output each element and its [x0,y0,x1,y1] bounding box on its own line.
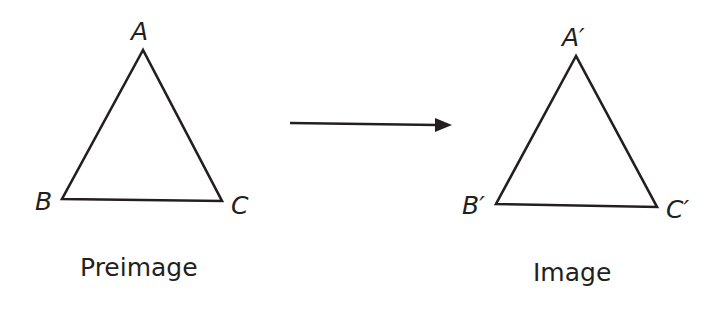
transformation-diagram: A B C Preimage A′ B′ C′ Image [0,0,725,313]
vertex-label-a: A [129,17,148,46]
vertex-label-b: B [35,187,52,216]
transformation-arrow [290,118,452,132]
vertex-label-c: C [231,191,249,220]
preimage-triangle: A B C Preimage [35,17,249,282]
diagram-canvas: A B C Preimage A′ B′ C′ Image [0,0,725,313]
preimage-caption: Preimage [80,253,198,282]
vertex-label-b-prime: B′ [462,191,485,220]
vertex-label-c-prime: C′ [666,195,689,224]
image-triangle: A′ B′ C′ Image [462,23,689,287]
arrowhead-icon [435,118,452,132]
image-caption: Image [533,258,611,287]
vertex-label-a-prime: A′ [560,23,585,52]
